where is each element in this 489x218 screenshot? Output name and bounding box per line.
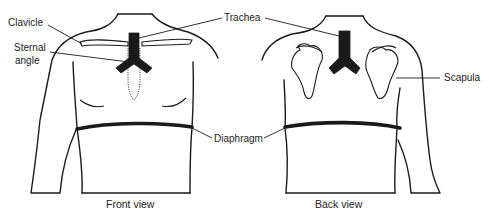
caption-front-view: Front view (106, 199, 154, 210)
back-trachea (329, 31, 360, 74)
label-trachea: Trachea (224, 12, 260, 23)
diaphragm-leader-front (192, 128, 212, 138)
label-clavicle: Clavicle (8, 17, 43, 28)
front-clavicle-left (80, 40, 128, 46)
back-left-shoulder (262, 16, 326, 60)
sternal-angle-leader (50, 52, 129, 62)
leader-lines (48, 18, 440, 138)
anatomy-diagram (0, 0, 489, 218)
back-view-figure (262, 16, 440, 193)
caption-back-view: Back view (315, 199, 362, 210)
label-sternal-angle-line2: angle (15, 55, 39, 66)
back-right-shoulder-arm (363, 16, 440, 193)
back-left-torso (284, 80, 287, 193)
front-left-shoulder-arm (31, 14, 118, 193)
trachea-leader-back (265, 18, 339, 36)
label-scapula: Scapula (444, 72, 480, 83)
front-diaphragm (77, 123, 192, 129)
back-scapula-right (366, 47, 398, 99)
front-trachea (116, 33, 152, 73)
label-diaphragm: Diaphragm (214, 133, 263, 144)
front-view-figure (31, 14, 218, 193)
front-pec-left (80, 100, 104, 107)
front-clavicle-right (142, 39, 192, 46)
back-diaphragm (285, 123, 400, 128)
front-right-shoulder (152, 14, 218, 58)
label-sternal-angle-line1: Sternal (14, 42, 46, 53)
back-right-torso (395, 88, 400, 193)
trachea-leader-front (139, 18, 222, 38)
diaphragm-leader-back (264, 128, 285, 138)
front-pec-right (162, 98, 186, 107)
back-scapula-left (292, 44, 323, 99)
